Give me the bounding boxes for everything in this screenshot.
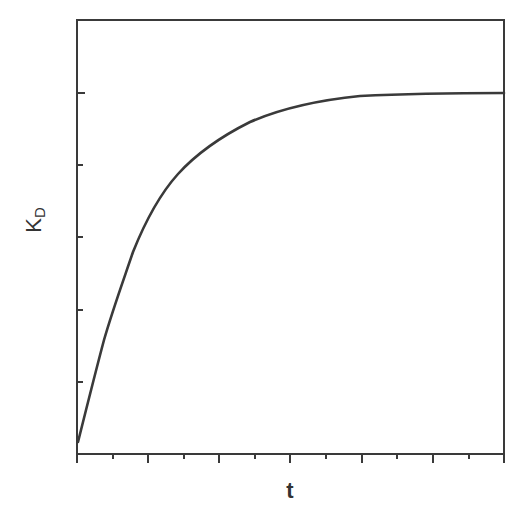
y-axis-ticks — [77, 93, 85, 382]
y-label-main: K — [21, 218, 46, 233]
plot-frame — [77, 20, 504, 454]
kd-curve — [78, 93, 504, 442]
chart-canvas — [0, 0, 522, 514]
y-label-subscript: D — [31, 207, 48, 218]
y-axis-label: KD — [19, 200, 49, 240]
x-axis-ticks — [77, 454, 504, 463]
x-axis-label: t — [280, 478, 300, 504]
